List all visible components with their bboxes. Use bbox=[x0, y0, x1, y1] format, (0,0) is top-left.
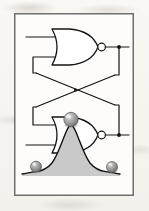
ball-right-sphere bbox=[107, 162, 118, 173]
ball-top-sphere bbox=[64, 112, 78, 126]
cross-coupling-center-dot bbox=[74, 89, 77, 92]
ball-left-stable bbox=[31, 161, 42, 173]
ball-right-highlight bbox=[108, 163, 112, 166]
ball-left-highlight bbox=[32, 163, 36, 166]
nor-gate-top-bubble-icon bbox=[98, 43, 106, 51]
figure-plate bbox=[14, 13, 134, 196]
figure-root bbox=[0, 0, 149, 211]
ball-top-highlight bbox=[66, 115, 71, 119]
nor-gate-bottom-bubble-icon bbox=[98, 131, 106, 139]
ball-left-sphere bbox=[31, 161, 42, 172]
ball-top-unstable bbox=[64, 112, 78, 127]
ball-right-stable bbox=[107, 162, 118, 174]
figure-illustration bbox=[14, 13, 134, 196]
